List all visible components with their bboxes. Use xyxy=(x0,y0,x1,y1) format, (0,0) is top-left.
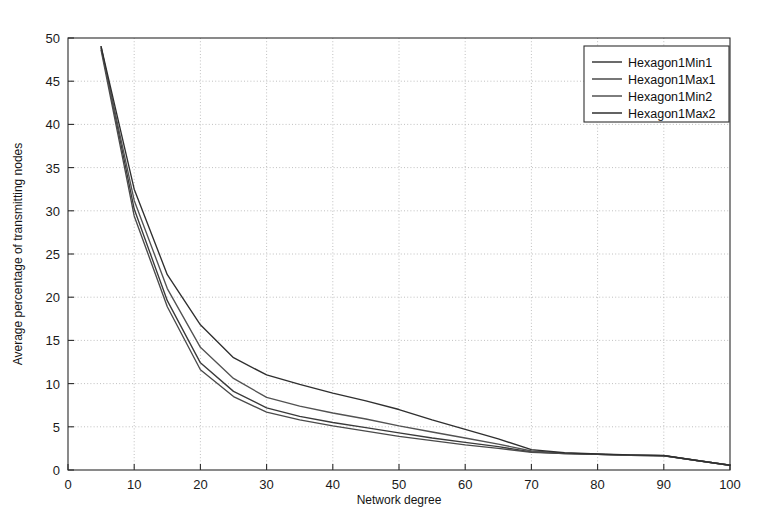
y-tick-label: 45 xyxy=(46,74,60,89)
y-tick-label: 50 xyxy=(46,31,60,46)
x-tick-label: 20 xyxy=(193,477,207,492)
x-axis-title: Network degree xyxy=(357,493,442,507)
y-tick-label: 40 xyxy=(46,117,60,132)
legend[interactable]: Hexagon1Min1Hexagon1Max1Hexagon1Min2Hexa… xyxy=(584,46,729,122)
x-tick-label: 80 xyxy=(590,477,604,492)
x-tick-label: 90 xyxy=(657,477,671,492)
x-tick-label: 0 xyxy=(64,477,71,492)
y-tick-label: 0 xyxy=(53,463,60,478)
x-tick-label: 50 xyxy=(392,477,406,492)
x-tick-label: 60 xyxy=(458,477,472,492)
x-tick-label: 40 xyxy=(326,477,340,492)
legend-label-3: Hexagon1Max2 xyxy=(628,107,716,121)
legend-label-0: Hexagon1Min1 xyxy=(628,56,712,70)
x-tick-label: 10 xyxy=(127,477,141,492)
y-tick-label: 15 xyxy=(46,333,60,348)
legend-label-1: Hexagon1Max1 xyxy=(628,73,716,87)
x-tick-label: 100 xyxy=(719,477,741,492)
y-tick-label: 30 xyxy=(46,204,60,219)
chart-page: 0102030405060708090100 05101520253035404… xyxy=(0,0,758,528)
y-tick-label: 20 xyxy=(46,290,60,305)
x-tick-label: 70 xyxy=(524,477,538,492)
y-tick-label: 25 xyxy=(46,247,60,262)
y-tick-label: 10 xyxy=(46,377,60,392)
legend-label-2: Hexagon1Min2 xyxy=(628,90,712,104)
y-tick-label: 5 xyxy=(53,420,60,435)
x-tick-label: 30 xyxy=(259,477,273,492)
y-axis-title: Average percentage of transmitting nodes xyxy=(11,143,25,366)
y-tick-label: 35 xyxy=(46,161,60,176)
line-chart-figure: 0102030405060708090100 05101520253035404… xyxy=(0,0,758,528)
